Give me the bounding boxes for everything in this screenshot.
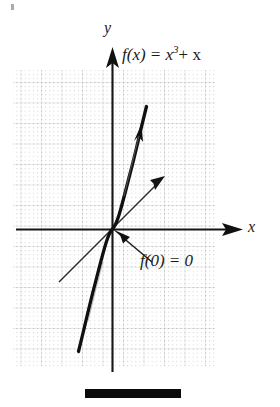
bottom-black-bar bbox=[85, 389, 181, 398]
plot-grid bbox=[13, 70, 215, 366]
x-axis-label: x bbox=[248, 219, 255, 235]
y-axis-label: y bbox=[104, 20, 111, 36]
scan-artifact-mark bbox=[11, 4, 14, 10]
function-tail: + x bbox=[179, 45, 201, 64]
figure-container: f(x) = x3+ x f(0) = 0 x y bbox=[0, 0, 280, 407]
function-expression-label: f(x) = x3+ x bbox=[122, 44, 201, 63]
function-expression-text: f(x) = x bbox=[122, 45, 173, 64]
annotation-value-label: f(0) = 0 bbox=[140, 252, 193, 269]
